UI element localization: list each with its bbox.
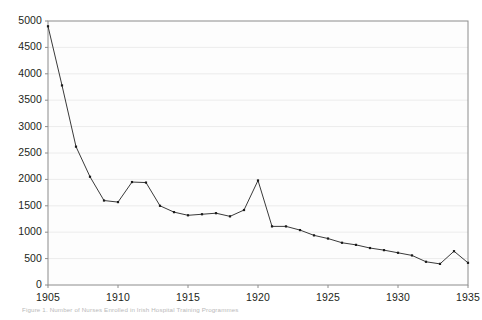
data-point-marker — [201, 213, 203, 215]
data-point-marker — [355, 244, 357, 246]
data-point-marker — [47, 25, 49, 27]
data-point-marker — [103, 199, 105, 201]
data-point-marker — [159, 205, 161, 207]
data-point-marker — [89, 176, 91, 178]
y-tick-label: 500 — [2, 252, 42, 264]
line-chart: 0500100015002000250030003500400045005000… — [0, 0, 482, 300]
data-point-marker — [271, 225, 273, 227]
y-tick-label: 0 — [2, 278, 42, 290]
data-point-marker — [369, 247, 371, 249]
y-tick-label: 4500 — [2, 40, 42, 52]
data-point-marker — [313, 234, 315, 236]
data-point-marker — [257, 179, 259, 181]
data-point-marker — [467, 262, 469, 264]
x-tick-label: 1915 — [165, 291, 211, 303]
y-tick-label: 1500 — [2, 199, 42, 211]
data-point-marker — [61, 84, 63, 86]
figure-container: 0500100015002000250030003500400045005000… — [0, 0, 482, 320]
data-point-marker — [285, 225, 287, 227]
data-point-marker — [327, 237, 329, 239]
figure-caption: Figure 1. Number of Nurses Enrolled in I… — [22, 306, 462, 314]
x-tick-label: 1905 — [25, 291, 71, 303]
x-tick-label: 1930 — [375, 291, 421, 303]
data-point-marker — [117, 201, 119, 203]
data-point-marker — [453, 250, 455, 252]
data-point-marker — [131, 181, 133, 183]
y-tick-label: 2500 — [2, 146, 42, 158]
chart-plot-area — [0, 0, 482, 300]
data-point-marker — [75, 146, 77, 148]
x-tick-label: 1925 — [305, 291, 351, 303]
data-point-marker — [187, 214, 189, 216]
y-tick-label: 2000 — [2, 172, 42, 184]
y-tick-label: 4000 — [2, 67, 42, 79]
y-tick-label: 5000 — [2, 14, 42, 26]
data-point-marker — [229, 215, 231, 217]
data-point-marker — [299, 229, 301, 231]
data-point-marker — [243, 209, 245, 211]
data-point-marker — [397, 252, 399, 254]
data-point-marker — [425, 261, 427, 263]
x-tick-label: 1910 — [95, 291, 141, 303]
x-tick-label: 1935 — [445, 291, 482, 303]
data-point-marker — [145, 181, 147, 183]
x-tick-label: 1920 — [235, 291, 281, 303]
data-point-marker — [215, 212, 217, 214]
data-point-marker — [439, 263, 441, 265]
data-point-marker — [383, 249, 385, 251]
data-point-marker — [173, 211, 175, 213]
y-tick-label: 3500 — [2, 93, 42, 105]
data-point-marker — [341, 242, 343, 244]
y-tick-label: 3000 — [2, 120, 42, 132]
y-tick-label: 1000 — [2, 225, 42, 237]
data-point-marker — [411, 254, 413, 256]
